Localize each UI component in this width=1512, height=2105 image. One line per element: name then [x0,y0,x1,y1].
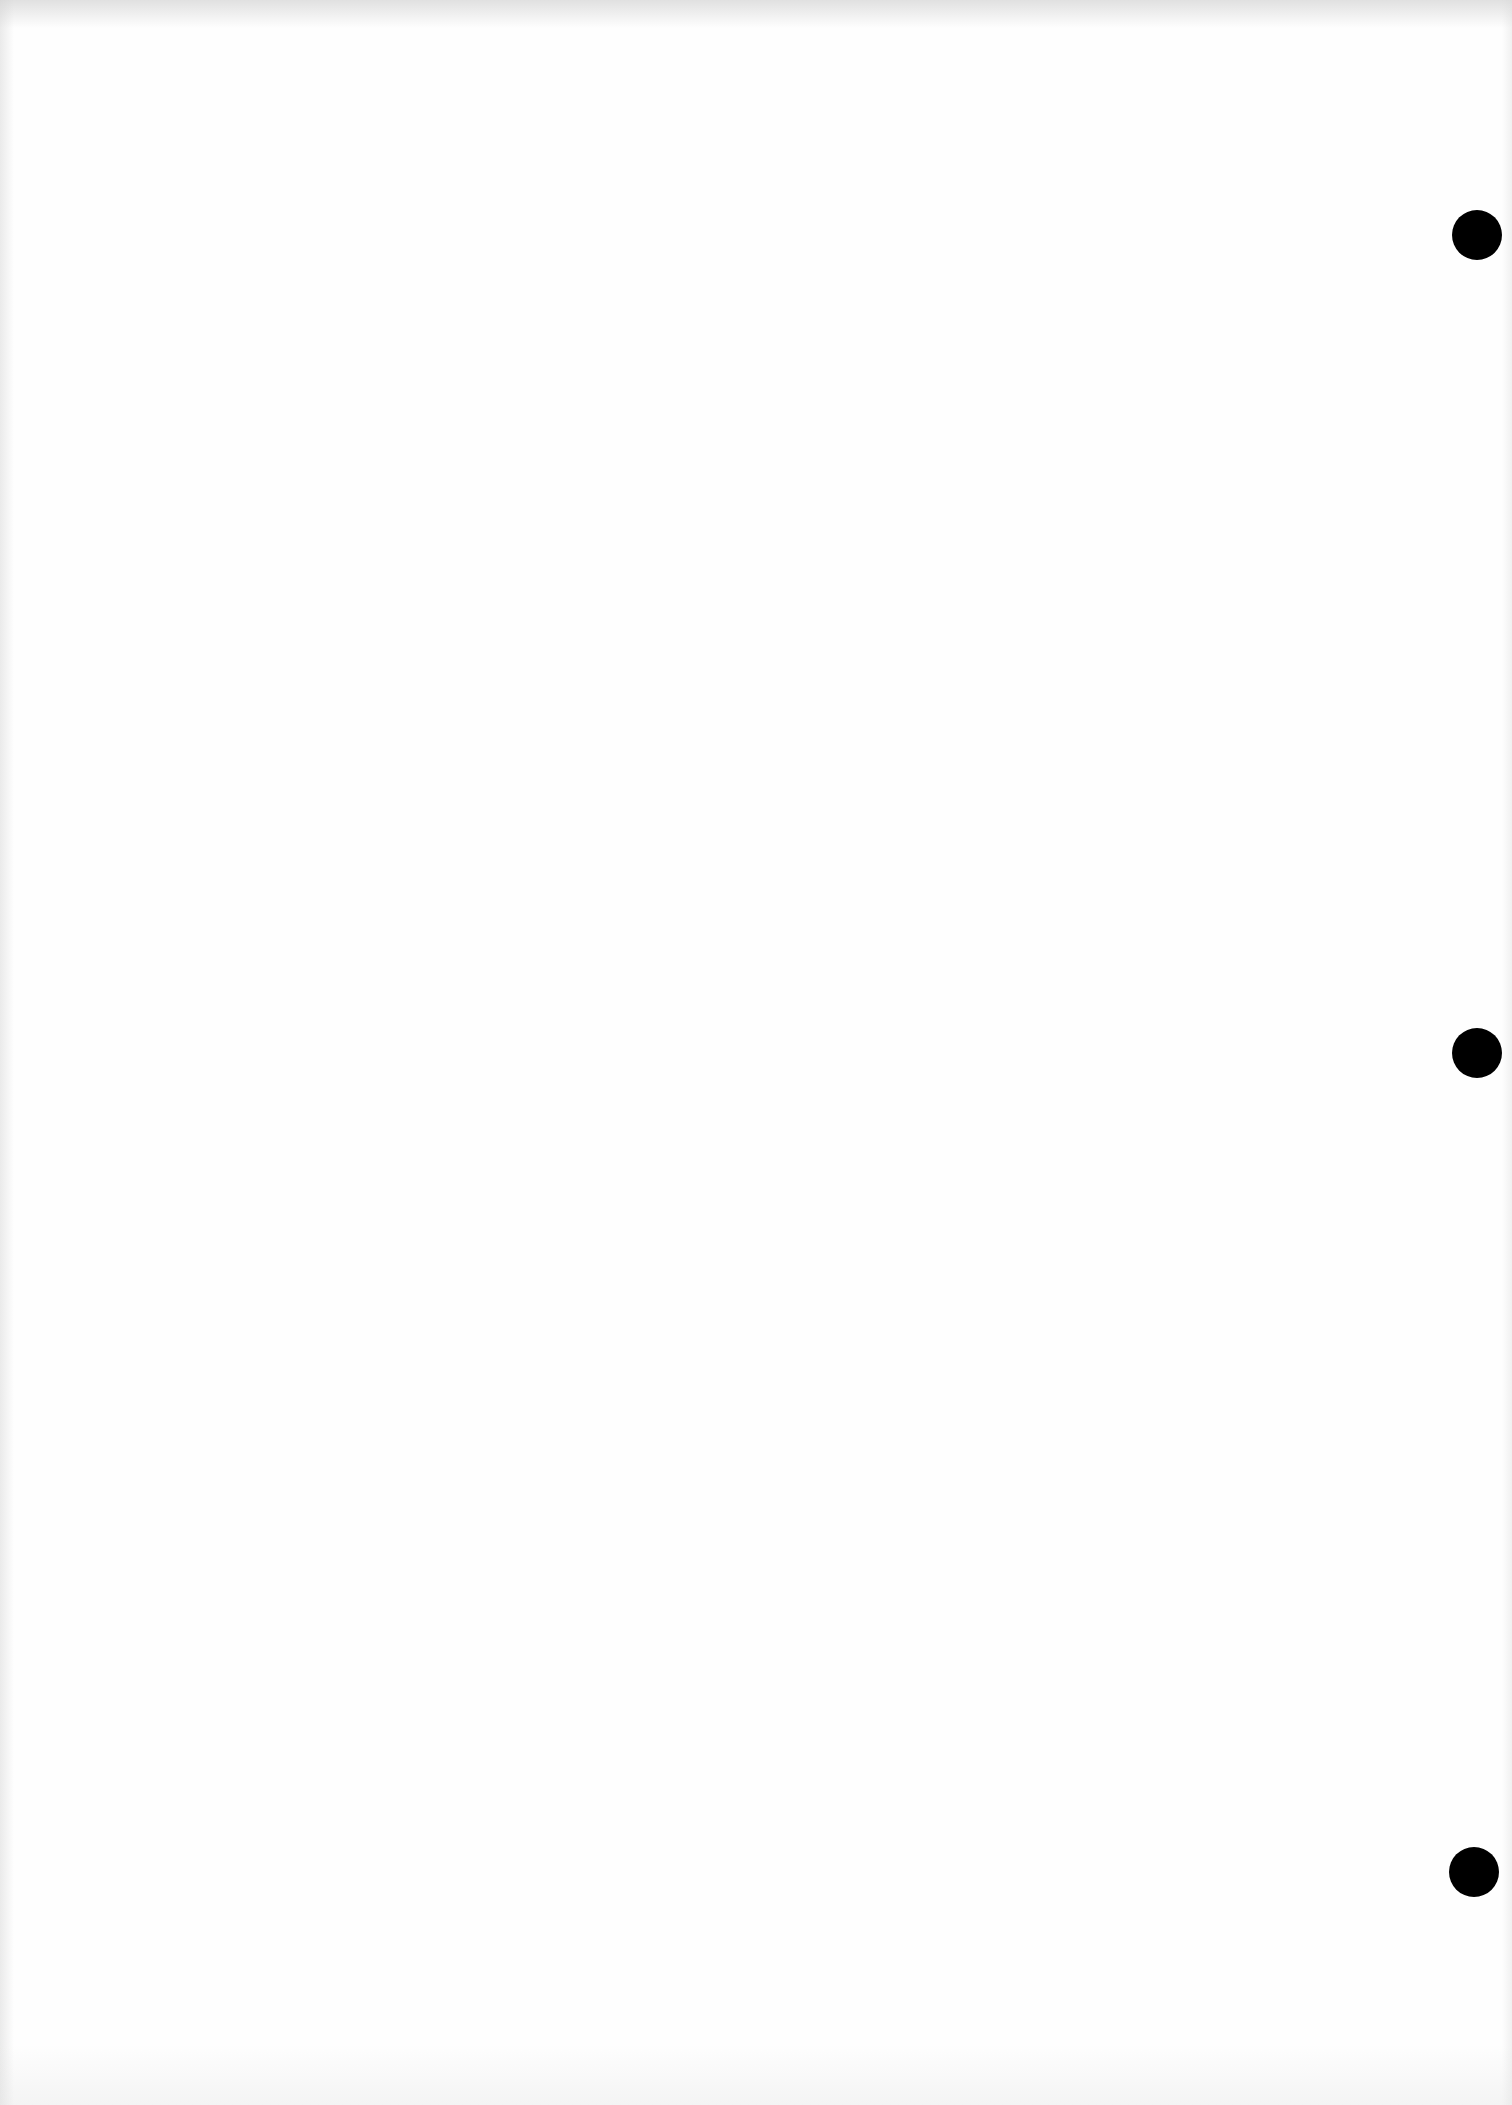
scanned-page [0,0,1512,2105]
punch-hole-icon [1452,210,1502,260]
scan-edge-shading-right [1502,0,1512,2105]
punch-hole-icon [1452,1028,1502,1078]
punch-hole-icon [1449,1847,1499,1897]
scan-edge-shading-left [0,0,14,2105]
scan-edge-shading-top [0,0,1512,28]
scan-edge-shading-bottom [0,2045,1512,2105]
